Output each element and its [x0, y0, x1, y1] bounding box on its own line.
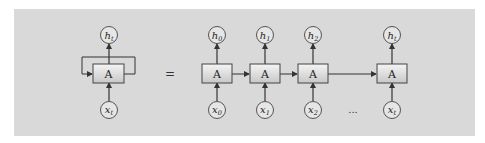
folded-rnn: A ht xt [82, 27, 135, 119]
unrolled-step-1: A h1 x1 [250, 27, 280, 119]
cell-label: A [260, 68, 270, 81]
ellipsis: ... [348, 104, 358, 115]
cell-label: A [308, 68, 318, 81]
cell-label: A [104, 68, 114, 81]
rnn-diagram: A ht xt = A h0 x0 A h1 [0, 0, 485, 143]
cell-label: A [212, 68, 222, 81]
unrolled-rnn: A h0 x0 A h1 x1 A h2 x2 [202, 27, 407, 119]
equals-sign: = [165, 67, 175, 81]
unrolled-step-2: A h2 x2 [298, 27, 328, 119]
cell-label: A [387, 68, 397, 81]
unrolled-step-0: A h0 x0 [202, 27, 232, 119]
unrolled-step-t: A ht xt [377, 27, 407, 119]
